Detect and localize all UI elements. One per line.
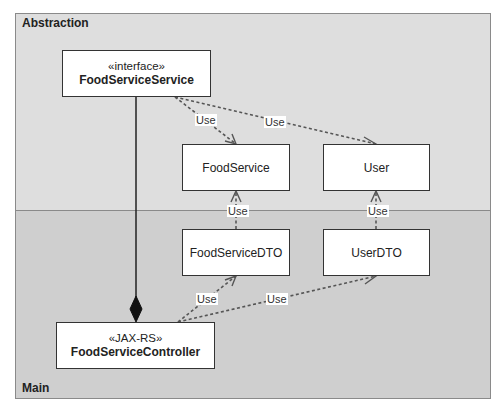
edge-label: Use xyxy=(195,114,217,126)
class-user[interactable]: User xyxy=(323,144,430,191)
open-arrow-icon xyxy=(225,134,236,144)
class-food-service-controller[interactable]: «JAX-RS» FoodServiceController xyxy=(56,322,215,369)
filled-diamond-icon xyxy=(130,296,142,322)
edge-label: Use xyxy=(266,293,288,305)
edge-label: Use xyxy=(264,116,286,128)
class-user-dto[interactable]: UserDTO xyxy=(323,229,430,276)
class-food-service-service[interactable]: «interface» FoodServiceService xyxy=(62,50,211,97)
class-name: FoodServiceService xyxy=(79,73,194,88)
edge-label: Use xyxy=(367,205,389,217)
class-name: FoodService xyxy=(202,161,269,175)
class-name: UserDTO xyxy=(351,246,401,260)
class-name: User xyxy=(364,161,389,175)
stereotype: «JAX-RS» xyxy=(109,331,163,345)
class-food-service-dto[interactable]: FoodServiceDTO xyxy=(182,229,290,276)
class-name: FoodServiceController xyxy=(71,345,200,360)
class-name: FoodServiceDTO xyxy=(190,246,282,260)
stereotype: «interface» xyxy=(108,59,165,73)
edge-label: Use xyxy=(227,205,249,217)
class-food-service[interactable]: FoodService xyxy=(182,144,290,191)
edge-label: Use xyxy=(196,293,218,305)
